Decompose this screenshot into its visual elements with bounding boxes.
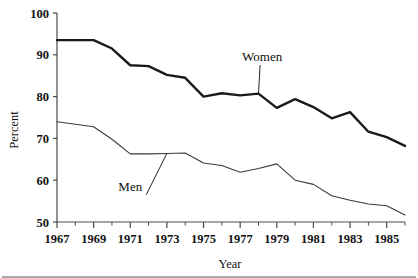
- y-tick-label: 60: [37, 174, 50, 188]
- x-tick-label: 1979: [264, 232, 289, 246]
- y-axis: 5060708090100: [30, 7, 57, 230]
- x-tick-label: 1977: [228, 232, 253, 246]
- y-tick-label: 50: [37, 216, 50, 230]
- x-axis-tick-labels: 1967196919711973197519771979198119831985: [45, 232, 400, 246]
- x-axis-title: Year: [218, 257, 242, 271]
- x-tick-label: 1985: [374, 232, 399, 246]
- series-annotations: WomenMen: [118, 49, 282, 195]
- line-chart: 5060708090100 19671969197119731975197719…: [0, 0, 418, 278]
- leader-line-men: [146, 153, 167, 194]
- series-label-men: Men: [118, 179, 142, 194]
- x-tick-label: 1983: [338, 232, 363, 246]
- x-tick-label: 1973: [154, 232, 179, 246]
- leader-line-women: [258, 65, 260, 94]
- y-tick-label: 100: [30, 7, 49, 21]
- y-tick-label: 70: [37, 132, 50, 146]
- x-tick-label: 1981: [301, 232, 326, 246]
- x-axis-ticks: [57, 222, 405, 228]
- chart-figure: 5060708090100 19671969197119731975197719…: [0, 0, 418, 278]
- series-line-women: [57, 40, 405, 146]
- series-label-women: Women: [242, 49, 283, 64]
- y-tick-label: 90: [37, 48, 50, 62]
- x-tick-label: 1969: [81, 232, 106, 246]
- x-axis: 1967196919711973197519771979198119831985: [45, 222, 406, 246]
- x-tick-label: 1975: [191, 232, 216, 246]
- series-line-men: [57, 122, 405, 215]
- y-axis-title: Percent: [7, 111, 21, 149]
- x-tick-label: 1971: [118, 232, 143, 246]
- y-axis-tick-labels: 5060708090100: [30, 7, 49, 230]
- series-lines: [57, 40, 405, 215]
- y-tick-label: 80: [37, 90, 50, 104]
- x-tick-label: 1967: [45, 232, 70, 246]
